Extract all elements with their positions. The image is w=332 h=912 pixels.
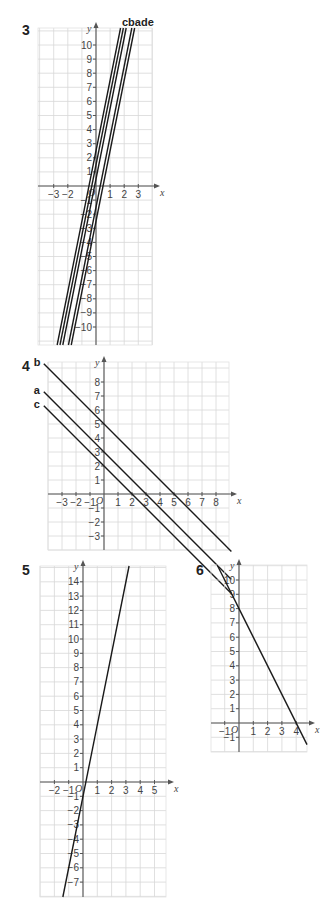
y-tick-label: 7 (86, 82, 92, 93)
graph-6: xyO−1123410987654321−1 (211, 559, 320, 752)
y-tick-label: 2 (229, 689, 235, 700)
y-tick-label: 9 (73, 648, 79, 659)
y-tick-label: 2 (86, 152, 92, 163)
x-axis-label: x (159, 187, 165, 198)
plot-line-b (44, 364, 232, 552)
x-tick-label: −3 (48, 189, 60, 200)
y-axis-arrow-icon (81, 560, 86, 566)
graph-5: xyO−2−1123451413121110987654321−1−2−3−4−… (40, 560, 179, 897)
x-tick-label: 5 (171, 497, 177, 508)
y-tick-label: −1 (224, 732, 236, 743)
y-tick-label: −10 (75, 322, 92, 333)
y-tick-label: 14 (68, 576, 80, 587)
grid (40, 566, 166, 897)
grid (211, 565, 307, 752)
y-tick-label: −8 (81, 293, 93, 304)
y-tick-label: 4 (86, 124, 92, 135)
x-axis-label: x (314, 724, 320, 735)
y-axis-arrow-icon (237, 559, 242, 565)
y-tick-label: −2 (68, 805, 80, 816)
y-tick-label: 10 (68, 634, 80, 645)
x-tick-label: 3 (123, 785, 129, 796)
y-tick-label: 2 (73, 748, 79, 759)
x-tick-label: 2 (265, 726, 271, 737)
x-tick-label: 8 (213, 497, 219, 508)
x-tick-label: 2 (121, 189, 127, 200)
plot-line-a (44, 392, 232, 580)
y-tick-label: 1 (229, 703, 235, 714)
line-label-a: a (34, 384, 41, 396)
y-tick-label: 6 (73, 691, 79, 702)
y-tick-label: 6 (86, 96, 92, 107)
line-labels: cbade (122, 16, 154, 28)
y-tick-label: 3 (73, 734, 79, 745)
y-tick-label: 10 (224, 575, 236, 586)
x-tick-label: 5 (152, 785, 158, 796)
y-tick-label: −9 (81, 307, 93, 318)
x-tick-label: 1 (95, 785, 101, 796)
x-tick-label: −2 (49, 785, 61, 796)
x-axis-label: x (173, 783, 179, 794)
y-tick-label: 4 (94, 433, 100, 444)
y-tick-label: 8 (86, 68, 92, 79)
y-tick-label: 7 (94, 391, 100, 402)
x-tick-label: 7 (199, 497, 205, 508)
graph-4: xyO−3−2−11234567887654321−1−2−3bac (34, 356, 242, 594)
x-tick-label: −2 (70, 497, 82, 508)
y-tick-label: −2 (89, 517, 101, 528)
y-tick-label: 5 (229, 646, 235, 657)
y-axis-arrow-icon (102, 356, 107, 362)
x-tick-label: 1 (107, 189, 113, 200)
y-axis-label: y (229, 560, 235, 571)
x-tick-label: 4 (137, 785, 143, 796)
y-tick-label: 7 (73, 676, 79, 687)
y-tick-label: 4 (229, 660, 235, 671)
y-tick-label: 11 (69, 619, 80, 630)
y-tick-label: 1 (73, 762, 79, 773)
y-tick-label: 9 (86, 54, 92, 65)
y-tick-label: 5 (86, 110, 92, 121)
y-tick-label: 4 (73, 719, 79, 730)
x-tick-label: 3 (136, 189, 142, 200)
y-tick-label: 6 (94, 405, 100, 416)
y-axis-label: y (86, 23, 92, 34)
y-tick-label: −5 (68, 848, 80, 859)
x-axis-label: x (236, 495, 242, 506)
y-tick-label: 12 (68, 605, 80, 616)
y-tick-label: 6 (229, 632, 235, 643)
x-tick-label: 1 (251, 726, 257, 737)
y-tick-label: 3 (86, 138, 92, 149)
y-tick-label: 13 (68, 591, 80, 602)
y-tick-label: 8 (94, 377, 100, 388)
y-tick-label: 8 (229, 603, 235, 614)
y-tick-label: 7 (229, 617, 235, 628)
y-tick-label: 1 (94, 475, 100, 486)
y-tick-label: 5 (73, 705, 79, 716)
y-tick-label: −3 (89, 531, 101, 542)
graph-3: xyO−3−212310987654321−1−2−3−4−5−6−7−8−9−… (38, 16, 165, 345)
line-label-b: b (34, 356, 41, 368)
y-tick-label: 8 (73, 662, 79, 673)
x-tick-label: −3 (56, 497, 68, 508)
y-axis-label: y (73, 561, 79, 572)
x-tick-label: −2 (62, 189, 74, 200)
x-tick-label: 3 (279, 726, 285, 737)
y-tick-label: −1 (89, 503, 101, 514)
x-tick-label: 2 (129, 497, 135, 508)
x-tick-label: 2 (109, 785, 115, 796)
y-tick-label: −1 (68, 791, 80, 802)
line-label-c: c (34, 398, 40, 410)
y-axis-arrow-icon (94, 22, 99, 28)
y-axis-label: y (94, 357, 100, 368)
y-tick-label: 10 (81, 40, 93, 51)
x-tick-label: 1 (115, 497, 121, 508)
y-tick-label: −7 (68, 877, 80, 888)
y-tick-label: 3 (229, 675, 235, 686)
graphs-canvas: xyO−3−212310987654321−1−2−3−4−5−6−7−8−9−… (0, 0, 332, 912)
